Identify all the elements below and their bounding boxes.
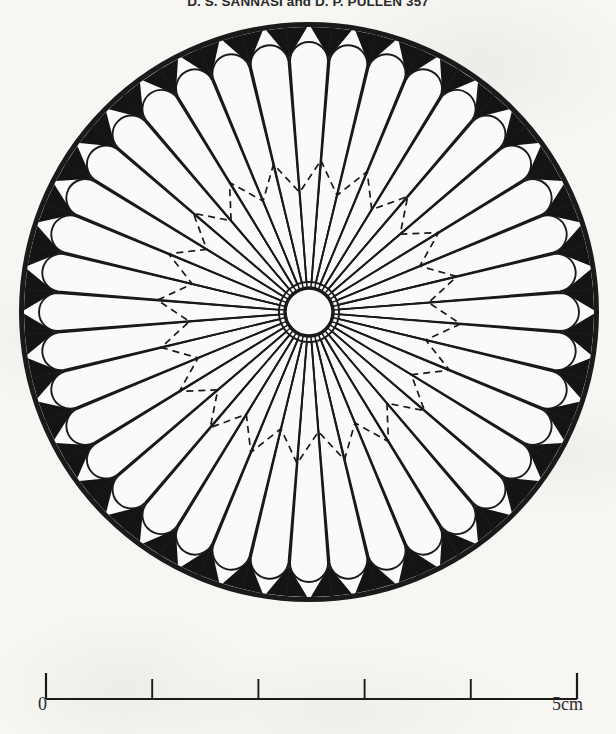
scale-label-five-cm: 5cm — [552, 694, 583, 715]
radial-petal-diagram — [0, 0, 616, 660]
page-canvas: D. S. SANNASI and D. P. PULLEN 357 0 5cm — [0, 0, 616, 734]
central-hub-circle — [285, 288, 333, 336]
scale-label-zero: 0 — [38, 694, 47, 715]
scale-bar — [0, 655, 616, 715]
